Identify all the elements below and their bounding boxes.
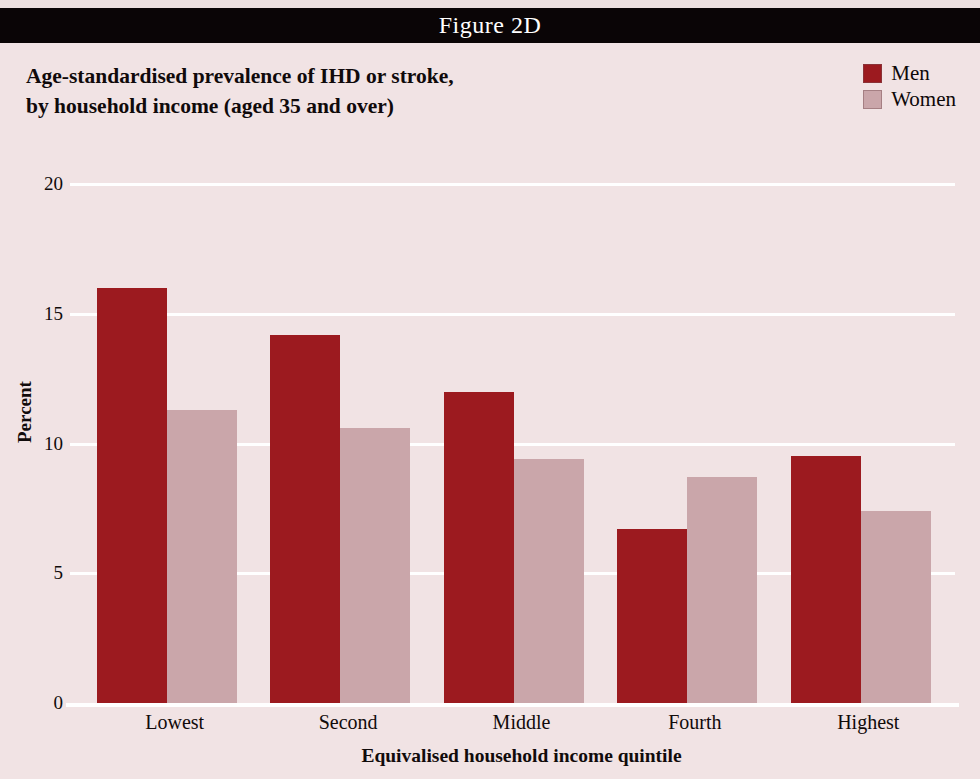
x-axis-label-second: Second (261, 711, 434, 734)
bar-group (608, 184, 781, 703)
y-axis-tick (70, 183, 88, 186)
bar-men-second (270, 335, 340, 703)
chart-page-surface: Age-standardised prevalence of IHD or st… (0, 43, 980, 779)
bar-women-lowest (167, 410, 237, 703)
bar-group (88, 184, 261, 703)
y-axis-tick (70, 572, 88, 575)
x-axis-label-middle: Middle (435, 711, 608, 734)
x-axis-baseline (66, 703, 959, 707)
bar-group (435, 184, 608, 703)
y-axis-tick-label: 15 (44, 303, 63, 325)
bar-women-fourth (687, 477, 757, 703)
x-axis-label-lowest: Lowest (88, 711, 261, 734)
figure-label: Figure 2D (439, 12, 542, 39)
plot-area: 05101520 (88, 184, 955, 703)
bar-men-highest (791, 456, 861, 703)
y-axis-tick-label: 5 (54, 562, 64, 584)
y-axis-title: Percent (14, 381, 36, 443)
y-axis-tick (70, 443, 88, 446)
x-axis-label-fourth: Fourth (608, 711, 781, 734)
y-axis-tick (70, 313, 88, 316)
bar-women-highest (861, 511, 931, 703)
bar-men-middle (444, 392, 514, 703)
x-axis-title: Equivalised household income quintile (88, 745, 955, 767)
bar-group (261, 184, 434, 703)
bar-men-fourth (617, 529, 687, 703)
bar-group (782, 184, 955, 703)
figure-banner: Figure 2D (0, 8, 980, 43)
plot-region: Percent 05101520 LowestSecondMiddleFourt… (0, 43, 980, 779)
bar-men-lowest (97, 288, 167, 703)
y-axis-tick-label: 20 (44, 173, 63, 195)
y-axis-tick-label: 0 (54, 692, 64, 714)
x-axis-label-highest: Highest (782, 711, 955, 734)
bar-women-middle (514, 459, 584, 703)
y-axis-tick-label: 10 (44, 433, 63, 455)
bar-women-second (340, 428, 410, 703)
